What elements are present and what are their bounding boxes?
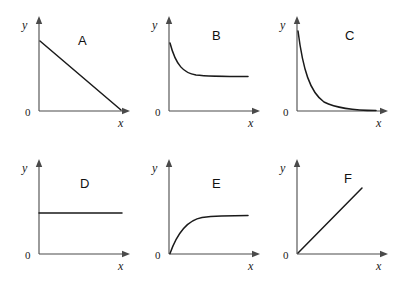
panel-a-plot: y x 0 A bbox=[0, 0, 135, 143]
panel-d-plot: y x 0 D bbox=[0, 143, 135, 286]
y-axis-label: y bbox=[151, 18, 158, 32]
y-axis-label: y bbox=[21, 18, 28, 32]
panel-c-plot: y x 0 C bbox=[272, 0, 407, 143]
origin-label: 0 bbox=[25, 249, 31, 261]
y-axis-arrow-icon bbox=[36, 16, 42, 24]
x-axis-label: x bbox=[117, 259, 124, 273]
x-axis-arrow-icon bbox=[122, 251, 130, 257]
curve-f bbox=[298, 188, 362, 253]
panel-letter-c: C bbox=[345, 28, 354, 43]
panel-b: y x 0 B bbox=[136, 0, 271, 143]
x-axis-label: x bbox=[247, 116, 254, 130]
x-axis-label: x bbox=[375, 116, 382, 130]
panel-b-plot: y x 0 B bbox=[136, 0, 271, 143]
panel-letter-f: F bbox=[344, 171, 352, 186]
curve-e bbox=[170, 216, 248, 254]
panel-e: y x 0 E bbox=[136, 143, 271, 286]
y-axis-arrow-icon bbox=[294, 16, 300, 24]
origin-label: 0 bbox=[155, 249, 161, 261]
y-axis-label: y bbox=[151, 161, 158, 175]
x-axis-arrow-icon bbox=[380, 251, 388, 257]
origin-label: 0 bbox=[283, 106, 289, 118]
x-axis-arrow-icon bbox=[122, 108, 130, 114]
panel-letter-a: A bbox=[78, 33, 87, 48]
x-axis-arrow-icon bbox=[252, 251, 260, 257]
curve-c bbox=[298, 31, 376, 111]
panel-f: y x 0 F bbox=[272, 143, 407, 286]
y-axis-label: y bbox=[279, 18, 286, 32]
panel-letter-e: E bbox=[212, 176, 221, 191]
y-axis-label: y bbox=[279, 161, 286, 175]
curve-a bbox=[40, 41, 121, 110]
panel-f-plot: y x 0 F bbox=[272, 143, 407, 286]
panel-e-plot: y x 0 E bbox=[136, 143, 271, 286]
x-axis-label: x bbox=[247, 259, 254, 273]
origin-label: 0 bbox=[155, 106, 161, 118]
x-axis-arrow-icon bbox=[252, 108, 260, 114]
x-axis-arrow-icon bbox=[380, 108, 388, 114]
x-axis-label: x bbox=[375, 259, 382, 273]
panel-d: y x 0 D bbox=[0, 143, 135, 286]
panel-a: y x 0 A bbox=[0, 0, 135, 143]
origin-label: 0 bbox=[283, 249, 289, 261]
panel-letter-d: D bbox=[80, 176, 89, 191]
y-axis-arrow-icon bbox=[294, 159, 300, 167]
y-axis-arrow-icon bbox=[166, 159, 172, 167]
y-axis-label: y bbox=[21, 161, 28, 175]
y-axis-arrow-icon bbox=[36, 159, 42, 167]
curve-b bbox=[170, 43, 248, 77]
y-axis-arrow-icon bbox=[166, 16, 172, 24]
figure-container: y x 0 A y x 0 B y x 0 C bbox=[0, 0, 407, 286]
origin-label: 0 bbox=[25, 106, 31, 118]
panel-letter-b: B bbox=[212, 28, 221, 43]
panel-c: y x 0 C bbox=[272, 0, 407, 143]
x-axis-label: x bbox=[117, 116, 124, 130]
